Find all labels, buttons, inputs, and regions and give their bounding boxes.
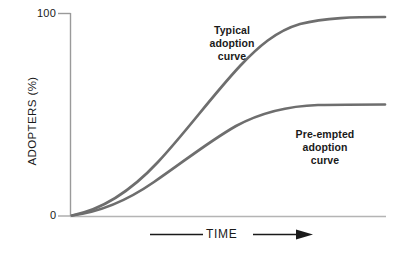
y-axis-tick-label-max: 100 [26,7,56,19]
adoption-curve-chart: 100 0 ADOPTERS (%) TIME Typical adoption… [0,0,398,264]
x-axis-title: TIME [206,227,237,241]
annotation-typical-line-3: curve [186,50,278,63]
annotation-preempted-line-2: adoption [272,141,378,154]
x-axis-arrowhead-icon [296,230,313,240]
y-axis-title: ADOPTERS (%) [26,51,38,191]
y-axis-tick-label-min: 0 [40,209,56,221]
annotation-preempted-adoption-curve: Pre-empted adoption curve [272,128,378,167]
annotation-typical-adoption-curve: Typical adoption curve [186,24,278,63]
annotation-preempted-line-3: curve [272,154,378,167]
annotation-preempted-line-1: Pre-empted [272,128,378,141]
annotation-typical-line-1: Typical [186,24,278,37]
annotation-typical-line-2: adoption [186,37,278,50]
